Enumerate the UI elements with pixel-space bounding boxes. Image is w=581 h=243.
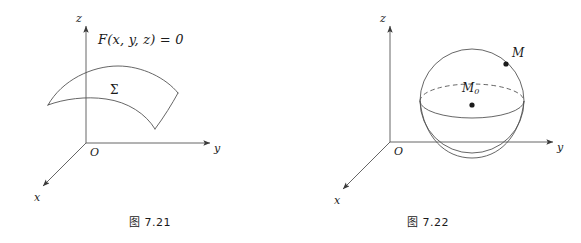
center-point-marker [469, 102, 474, 107]
x-axis-label: x [34, 192, 40, 203]
surface-right-edge [155, 93, 178, 129]
x-axis-line [343, 142, 390, 189]
z-axis-label: z [76, 13, 82, 24]
surface-point-label: M [512, 47, 524, 59]
origin-label: O [394, 146, 403, 157]
surface-near-edge [48, 98, 155, 129]
figure-7-21-caption: 图 7.21 [129, 213, 171, 229]
y-axis-label: y [214, 143, 220, 154]
sigma-surface-label: Σ [110, 84, 118, 96]
surface-point-marker [503, 61, 508, 66]
figure-board: z y x O F(x, y, z) = 0 Σ 图 7.21 [0, 0, 581, 243]
x-axis-line [43, 143, 86, 186]
z-axis-label: z [380, 13, 386, 24]
center-point-letter: M [462, 81, 474, 95]
implicit-equation-label: F(x, y, z) = 0 [98, 33, 184, 46]
x-axis-label: x [334, 195, 340, 206]
y-axis-label: y [557, 142, 563, 153]
sphere-lower-contour [420, 101, 524, 158]
center-point-subscript: 0 [474, 87, 479, 96]
origin-label: O [90, 147, 99, 158]
figure-7-22-panel: z y x O M0 M 图 7.22 [290, 0, 581, 243]
center-point-label: M0 [462, 82, 479, 94]
figure-7-21-panel: z y x O F(x, y, z) = 0 Σ 图 7.21 [0, 0, 290, 243]
figure-7-22-caption: 图 7.22 [407, 213, 449, 229]
